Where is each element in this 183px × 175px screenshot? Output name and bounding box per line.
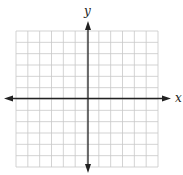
y-axis-down-arrow-icon — [85, 164, 91, 173]
y-axis-label: y — [83, 4, 91, 18]
y-axis-up-arrow-icon — [85, 21, 91, 30]
x-axis-label: x — [175, 91, 182, 105]
coordinate-plane: y x — [0, 0, 183, 175]
x-axis-left-arrow-icon — [4, 96, 13, 102]
x-axis-right-arrow-icon — [162, 96, 171, 102]
